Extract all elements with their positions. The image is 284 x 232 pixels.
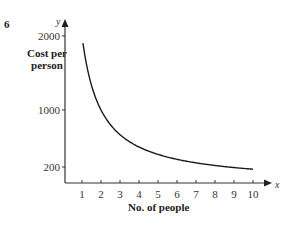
y-axis-arrow-icon bbox=[62, 19, 69, 27]
x-tick-label: 9 bbox=[231, 188, 237, 200]
cost-curve bbox=[83, 43, 253, 169]
x-tick-label: 5 bbox=[155, 188, 161, 200]
x-tick-label: 2 bbox=[98, 188, 104, 200]
x-tick-label: 1 bbox=[79, 188, 85, 200]
y-tick-label: 200 bbox=[44, 161, 61, 173]
chart-plot: xy1234567891020010002000 bbox=[0, 0, 284, 232]
x-tick-label: 3 bbox=[117, 188, 123, 200]
x-tick-label: 10 bbox=[248, 188, 260, 200]
x-tick-label: 7 bbox=[193, 188, 199, 200]
x-tick-label: 6 bbox=[174, 188, 180, 200]
x-tick-label: 8 bbox=[212, 188, 218, 200]
x-tick-label: 4 bbox=[136, 188, 142, 200]
y-tick-label: 1000 bbox=[38, 104, 61, 116]
x-axis-symbol: x bbox=[274, 179, 280, 190]
x-axis-arrow-icon bbox=[264, 180, 272, 187]
y-tick-label: 2000 bbox=[38, 30, 61, 42]
y-axis-symbol: y bbox=[55, 16, 61, 27]
